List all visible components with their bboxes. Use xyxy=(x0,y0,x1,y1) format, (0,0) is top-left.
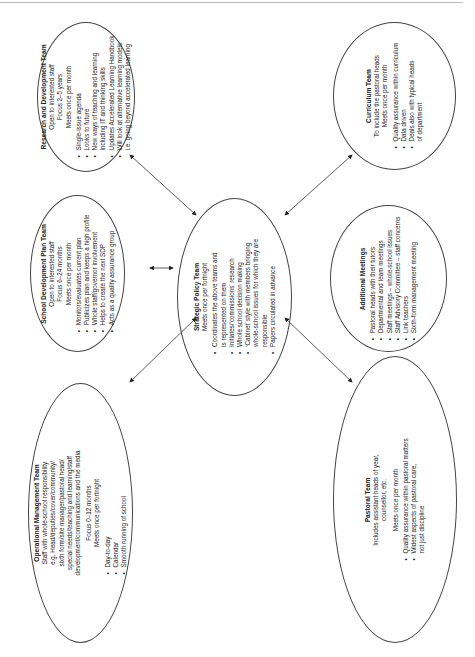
node-bullet: Single-issue agenda xyxy=(75,36,83,151)
research-team-node: Research and Development Team Open to in… xyxy=(37,22,135,172)
node-bullet: Calendar xyxy=(112,451,120,568)
node-line: Focus 0–12 months xyxy=(85,451,93,576)
node-bullet: Day-to-day xyxy=(104,451,112,568)
node-line: special needs/teaching and learning/staf… xyxy=(66,451,74,576)
node-bullet: Initiates/‘commissions’ research xyxy=(227,239,235,347)
node-bullet: Helps to create the next SDP xyxy=(99,214,107,325)
node-line: e.g. Head/deputies/cover/community/ xyxy=(49,451,57,576)
strategic-policy-team-node: Strategic Policy Team Meets once per for… xyxy=(177,198,292,396)
node-line: Focus 6–24 months xyxy=(56,214,64,333)
node-line: Meets once per fortnight xyxy=(93,451,101,576)
node-bullet-cont: responsible xyxy=(260,239,268,347)
operational-team-content: Operational Management Team Staff with w… xyxy=(33,451,128,576)
additional-meetings-node: Additional Meetings Pastoral heads with … xyxy=(330,205,447,352)
node-title: Curriculum Team xyxy=(365,42,373,149)
node-title: School Development Plan Team xyxy=(40,214,48,333)
arrow-research-strategic xyxy=(130,155,196,215)
node-line: development/communications and the media xyxy=(74,451,82,576)
node-bullet: Looks to future xyxy=(83,36,91,151)
operational-management-team-node: Operational Management Team Staff with w… xyxy=(28,383,133,643)
arrow-pastoral-strategic xyxy=(285,318,352,382)
node-title: Additional Meetings xyxy=(359,216,367,341)
node-bullet: Link teachers xyxy=(402,216,410,333)
sdp-team-content: School Development Plan Team Open to int… xyxy=(40,214,116,333)
node-line: Staff with whole-school responsibility xyxy=(41,451,49,576)
node-bullet-cont: of department xyxy=(416,42,424,141)
node-bullet: Widest aspects of pastoral care, xyxy=(410,438,418,553)
node-bullet: ‘Cabinet’ style with members bringing xyxy=(244,239,252,347)
node-line: Meets once per month xyxy=(64,36,72,159)
node-bullet: Staff meetings – whole-school issues xyxy=(385,216,393,333)
node-bullet: Quality assurance within pastoral matter… xyxy=(402,438,410,553)
node-bullet-cont: including IT and thinking skills xyxy=(99,36,107,151)
node-title: Strategic Policy Team xyxy=(192,239,200,355)
additional-meetings-content: Additional Meetings Pastoral heads with … xyxy=(359,216,418,341)
node-title: Research and Development Team xyxy=(40,36,48,159)
node-bullet: Staff Advisory Committee – staff concern… xyxy=(394,216,402,333)
node-line: Open to interested staff xyxy=(48,36,56,159)
node-bullet: Monitors/evaluates current plan xyxy=(74,214,82,325)
node-line: sixth form/site manager/pastoral head/ xyxy=(57,451,65,576)
node-title: Pastoral Team xyxy=(364,438,372,561)
node-line: Meets once per month xyxy=(391,438,399,561)
pastoral-team-content: Pastoral Team Includes assistant heads o… xyxy=(364,438,426,561)
node-bullet: Data driven xyxy=(400,42,408,141)
node-bullet: Acts as a quality assurance group xyxy=(107,214,115,325)
node-bullet: Updates Accelerated Learning Handbook xyxy=(108,36,116,151)
node-line: Meets once per month xyxy=(64,214,72,333)
node-line: Focus 2–5 years xyxy=(56,36,64,159)
node-bullet: Quality assurance within curriculum xyxy=(391,42,399,141)
arrow-curriculum-strategic xyxy=(285,155,352,215)
pastoral-team-node: Pastoral Team Includes assistant heads o… xyxy=(333,356,457,643)
node-bullet: Smooth running of school xyxy=(120,451,128,568)
strategic-team-content: Strategic Policy Team Meets once per for… xyxy=(192,239,276,355)
node-line: To include the pastoral heads xyxy=(373,42,381,149)
node-line: Includes assistant heads of year, xyxy=(372,438,380,561)
node-bullet: Papers circulated in advance xyxy=(268,239,276,347)
research-team-content: Research and Development Team Open to in… xyxy=(40,36,132,159)
node-bullet: Coordinates the above teams and xyxy=(211,239,219,347)
node-bullet: Sixth-form management meeting xyxy=(410,216,418,333)
curriculum-team-content: Curriculum Team To include the pastoral … xyxy=(365,42,424,149)
node-bullet-cont: i.e. going beyond accelerated learning xyxy=(124,36,132,151)
node-bullet: Will look at alternative learning models xyxy=(116,36,124,151)
node-bullet: New ways of teaching and learning xyxy=(91,36,99,151)
node-bullet: Whole staff/governor involvement xyxy=(91,214,99,325)
node-line: counsellor, etc. xyxy=(380,438,388,561)
node-bullet-cont: is represented on them xyxy=(219,239,227,347)
node-title: Operational Management Team xyxy=(33,451,41,576)
node-bullet: Whole school decision making xyxy=(236,239,244,347)
school-development-plan-team-node: School Development Plan Team Open to int… xyxy=(30,195,125,352)
node-bullet-cont: whole-school issues for which they are xyxy=(252,239,260,347)
node-bullet-cont: not just discipline xyxy=(418,438,426,553)
node-bullet: Deals also with typical heads xyxy=(408,42,416,141)
curriculum-team-node: Curriculum Team To include the pastoral … xyxy=(333,22,456,170)
node-line: Meets once per fortnight xyxy=(201,239,209,355)
node-bullet: Publicizes plan and keeps a high profile xyxy=(83,214,91,325)
node-bullet: Pastoral heads with their tutors xyxy=(369,216,377,333)
node-bullet: Departmental and team meetings xyxy=(377,216,385,333)
node-line: Meets once per month xyxy=(381,42,389,149)
node-line: Open to interested staff xyxy=(48,214,56,333)
